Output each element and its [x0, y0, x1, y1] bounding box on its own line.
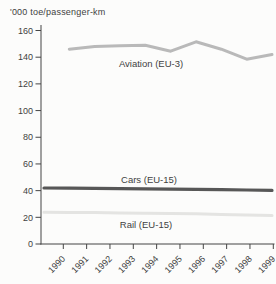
x-tick-label: 1998: [233, 254, 254, 275]
y-tick-label: 80: [23, 132, 33, 142]
x-tick-label: 1997: [209, 254, 230, 275]
series-line-aviation-eu-3: [69, 42, 272, 59]
x-tick-label: 1994: [139, 254, 160, 275]
y-tick-label: 100: [18, 106, 33, 116]
series-line-rail-eu-15: [44, 212, 272, 215]
series-label-aviation-eu-3: Aviation (EU-3): [119, 58, 183, 69]
y-tick-label: 140: [18, 52, 33, 62]
series-label-cars-eu-15: Cars (EU-15): [121, 174, 177, 185]
x-tick-label: 1990: [46, 254, 67, 275]
x-tick-label: 1999: [256, 254, 276, 275]
series-label-rail-eu-15: Rail (EU-15): [120, 219, 172, 230]
x-tick-label: 1992: [93, 254, 114, 275]
y-axis-unit-label: '000 toe/passenger-km: [10, 7, 105, 17]
y-tick-label: 160: [18, 26, 33, 36]
x-tick-label: 1996: [186, 254, 207, 275]
y-tick-label: 120: [18, 79, 33, 89]
y-tick-label: 0: [28, 239, 33, 249]
y-tick-label: 20: [23, 213, 33, 223]
y-tick-label: 60: [23, 159, 33, 169]
chart: '000 toe/passenger-km 020406080100120140…: [0, 0, 276, 284]
x-tick-label: 1993: [116, 254, 137, 275]
x-tick-label: 1991: [69, 254, 90, 275]
series-line-cars-eu-15: [44, 188, 272, 190]
x-tick-label: 1995: [163, 254, 184, 275]
y-tick-label: 40: [23, 186, 33, 196]
chart-svg: 0204060801001201401601990199119921993199…: [0, 0, 276, 284]
